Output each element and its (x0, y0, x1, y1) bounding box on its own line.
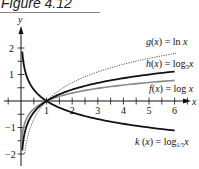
x-tick-label: 4 (121, 105, 126, 116)
label-k: k (x) = log1/5x (135, 136, 189, 148)
x-tick-label: 6 (172, 105, 177, 116)
label-g: g(x) = ln x (146, 36, 188, 48)
y-axis-label: y (17, 14, 23, 25)
label-f: f(x) = log x (149, 83, 194, 95)
y-tick-label: −2 (5, 149, 16, 160)
y-tick-label: −1 (5, 122, 16, 133)
x-axis: 123456 (4, 98, 191, 117)
y-axis-arrow-icon (19, 26, 24, 34)
chart-plot: 123456 21−1−2 x y g(x) = ln x h(x) = log… (0, 0, 199, 169)
x-tick-label: 2 (70, 105, 75, 116)
x-tick-label: 1 (44, 105, 49, 116)
y-tick-label: 2 (9, 43, 14, 54)
y-tick-label: 1 (9, 69, 14, 80)
label-h: h(x) = log5x (146, 58, 194, 71)
x-axis-label: x (191, 96, 197, 107)
x-tick-label: 5 (147, 105, 152, 116)
x-tick-label: 3 (95, 105, 100, 116)
